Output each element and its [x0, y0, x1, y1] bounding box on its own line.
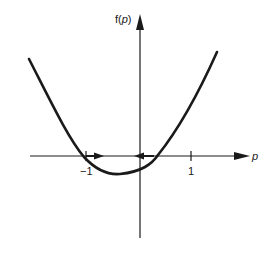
y-axis-arrowhead-icon	[136, 14, 144, 30]
x-axis-arrowhead-icon	[234, 152, 250, 160]
function-plot: f(p) p −1 1	[0, 0, 278, 255]
flow-arrow-left-icon	[134, 153, 144, 160]
flow-arrow-right-icon	[94, 153, 104, 160]
tick-label-minus-1: −1	[80, 165, 93, 177]
y-axis-label: f(p)	[115, 13, 132, 25]
diagram: f(p) p −1 1	[0, 0, 278, 255]
tick-label-1: 1	[188, 165, 194, 177]
x-axis-label: p	[251, 150, 258, 162]
